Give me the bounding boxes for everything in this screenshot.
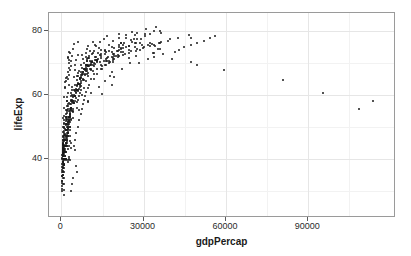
data-point (64, 87, 66, 89)
data-point (87, 75, 89, 77)
data-point (62, 135, 64, 137)
data-point (121, 68, 123, 70)
data-point (73, 76, 75, 78)
data-point (78, 109, 80, 111)
y-tick-mark (44, 158, 48, 159)
data-point (89, 64, 91, 66)
data-point (112, 53, 114, 55)
data-point (87, 101, 89, 103)
data-point (62, 139, 64, 141)
data-point (90, 78, 92, 80)
data-point (136, 38, 138, 40)
data-point (282, 79, 284, 81)
data-point (82, 79, 84, 81)
data-point (67, 56, 69, 58)
data-point (111, 84, 113, 86)
data-points-layer (49, 13, 394, 216)
data-point (203, 40, 205, 42)
data-point (358, 108, 360, 110)
data-point (129, 62, 131, 64)
data-point (87, 45, 89, 47)
data-point (85, 91, 87, 93)
plot-panel (48, 12, 395, 217)
data-point (77, 54, 79, 56)
data-point (93, 73, 95, 75)
data-point (65, 151, 67, 153)
y-tick-label: 80 (32, 25, 42, 35)
data-point (70, 190, 72, 192)
data-point (66, 139, 68, 141)
data-point (76, 171, 78, 173)
data-point (62, 177, 64, 179)
data-point (80, 89, 82, 91)
data-point (70, 103, 72, 105)
data-point (125, 34, 127, 36)
data-point (68, 84, 70, 86)
data-point (66, 96, 68, 98)
data-point (104, 80, 106, 82)
data-point (196, 42, 198, 44)
data-point (153, 56, 155, 58)
data-point (104, 53, 106, 55)
data-point (128, 45, 130, 47)
data-point (100, 64, 102, 66)
data-point (99, 61, 101, 63)
data-point (171, 58, 173, 60)
data-point (93, 62, 95, 64)
data-point (190, 61, 192, 63)
data-point (100, 49, 102, 51)
data-point (63, 171, 65, 173)
data-point (74, 64, 76, 66)
data-point (108, 44, 110, 46)
data-point (89, 50, 91, 52)
x-tick-label: 60000 (212, 221, 237, 231)
data-point (90, 92, 92, 94)
data-point (96, 68, 98, 70)
data-point (72, 110, 74, 112)
data-point (154, 45, 156, 47)
data-point (93, 78, 95, 80)
data-point (87, 57, 89, 59)
data-point (109, 75, 111, 77)
data-point (74, 69, 76, 71)
data-point (159, 48, 161, 50)
data-point (84, 74, 86, 76)
data-point (122, 47, 124, 49)
data-point (169, 38, 171, 40)
data-point (174, 51, 176, 53)
data-point (62, 152, 64, 154)
data-point (93, 65, 95, 67)
y-tick-label: 60 (32, 89, 42, 99)
data-point (136, 32, 138, 34)
data-point (70, 60, 72, 62)
data-point (113, 76, 115, 78)
data-point (190, 37, 192, 39)
data-point (81, 67, 83, 69)
data-point (100, 57, 102, 59)
data-point (209, 37, 211, 39)
data-point (80, 85, 82, 87)
data-point (83, 87, 85, 89)
data-point (75, 165, 77, 167)
data-point (68, 62, 70, 64)
data-point (78, 83, 80, 85)
data-point (135, 55, 137, 57)
data-point (73, 43, 75, 45)
data-point (73, 102, 75, 104)
data-point (112, 61, 114, 63)
data-point (70, 65, 72, 67)
data-point (86, 60, 88, 62)
data-point (80, 64, 82, 66)
y-tick-mark (44, 94, 48, 95)
data-point (131, 31, 133, 33)
data-point (83, 99, 85, 101)
data-point (68, 59, 70, 61)
data-point (63, 194, 65, 196)
data-point (96, 73, 98, 75)
data-point (145, 28, 147, 30)
data-point (76, 107, 78, 109)
data-point (106, 35, 108, 37)
data-point (66, 76, 68, 78)
data-point (98, 86, 100, 88)
data-point (160, 32, 162, 34)
